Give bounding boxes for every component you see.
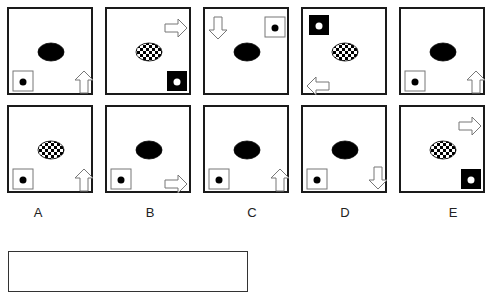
- filled-square-with-dot: [309, 15, 329, 35]
- puzzle-panel-r2-c4[interactable]: [399, 105, 485, 193]
- option-label-d[interactable]: D: [335, 205, 355, 220]
- option-label-b[interactable]: B: [140, 205, 160, 220]
- solid-oval: [38, 43, 64, 61]
- arrow-right-icon: [165, 19, 187, 37]
- checkered-oval: [430, 141, 456, 159]
- puzzle-panel-r2-c2[interactable]: [203, 105, 289, 193]
- outline-square-with-dot: [405, 71, 425, 91]
- checkered-oval: [332, 43, 358, 61]
- arrow-right-icon: [165, 175, 187, 193]
- puzzle-panel-r2-c1[interactable]: [105, 105, 191, 193]
- solid-oval: [136, 141, 162, 159]
- arrow-up-icon: [75, 71, 93, 93]
- arrow-up-icon: [467, 71, 485, 93]
- outline-square-with-dot: [13, 71, 33, 91]
- solid-oval: [234, 141, 260, 159]
- filled-square-with-dot: [167, 71, 187, 91]
- arrow-up-icon: [271, 169, 289, 191]
- puzzle-panel-r1-c2: [203, 7, 289, 95]
- filled-square-with-dot: [461, 169, 481, 189]
- puzzle-panel-r1-c1: [105, 7, 191, 95]
- puzzle-panel-r2-c3[interactable]: [301, 105, 387, 193]
- option-label-c[interactable]: C: [242, 205, 262, 220]
- puzzle-panel-r1-c3: [301, 7, 387, 95]
- solid-oval: [234, 43, 260, 61]
- outline-square-with-dot: [265, 17, 285, 37]
- arrow-right-icon: [459, 117, 481, 135]
- solid-oval: [430, 43, 456, 61]
- arrow-left-icon: [307, 77, 329, 95]
- outline-square-with-dot: [111, 169, 131, 189]
- answer-box[interactable]: [8, 251, 248, 292]
- checkered-oval: [136, 43, 162, 61]
- arrow-down-icon: [209, 17, 227, 39]
- puzzle-panel-r1-c4: [399, 7, 485, 95]
- puzzle-panel-r1-c0: [7, 7, 93, 95]
- checkered-oval: [38, 141, 64, 159]
- option-label-e[interactable]: E: [443, 205, 463, 220]
- solid-oval: [332, 141, 358, 159]
- outline-square-with-dot: [307, 169, 327, 189]
- option-label-a[interactable]: A: [28, 205, 48, 220]
- puzzle-panel-r2-c0[interactable]: [7, 105, 93, 193]
- outline-square-with-dot: [209, 169, 229, 189]
- outline-square-with-dot: [13, 169, 33, 189]
- arrow-up-icon: [75, 169, 93, 191]
- arrow-down-icon: [369, 167, 387, 189]
